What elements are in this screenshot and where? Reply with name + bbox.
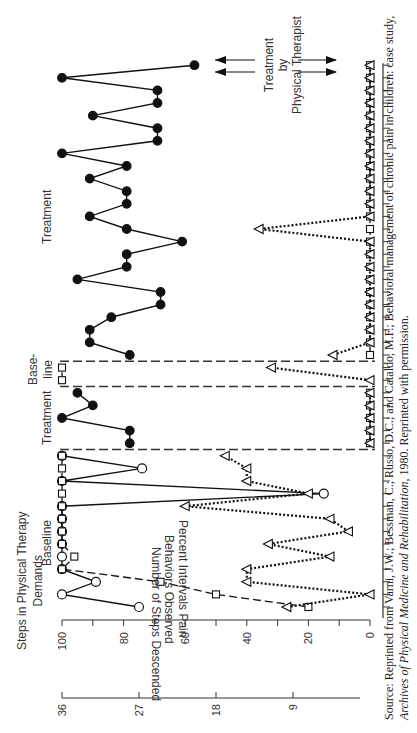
phase-label-baseline-2-line1: Base- (26, 354, 41, 385)
phase-label-treatment-2: Treatment (40, 190, 54, 244)
source-line2-rest: 1980. Reprinted with permission. (397, 315, 411, 478)
bottom-axis-title: Number of Steps Descended (149, 547, 163, 701)
svg-text:100: 100 (56, 632, 68, 650)
phase-label-baseline-2-line2: line (41, 354, 56, 385)
middle-axis-title-line1: Percent Intervals Pain (176, 520, 190, 637)
line-chart: 1008060402003627189 (0, 0, 417, 733)
middle-axis-title-line2: Behaviors Observed (162, 535, 176, 644)
phase-dividers (60, 361, 375, 449)
source-line2: Archives of Physical Medicine and Rehabi… (397, 16, 412, 720)
svg-text:36: 36 (56, 704, 68, 716)
svg-text:0: 0 (364, 632, 376, 638)
annotation-text: Treatment by Physical Therapist (262, 10, 304, 120)
svg-text:18: 18 (210, 704, 222, 716)
svg-text:27: 27 (133, 704, 145, 716)
data-series (58, 61, 375, 612)
middle-axis-title-block: Percent Intervals Pain Behaviors Observe… (162, 520, 202, 710)
svg-text:9: 9 (287, 704, 299, 710)
annotation-line3: Physical Therapist (290, 10, 304, 120)
svg-text:80: 80 (118, 632, 130, 644)
source-line1: Source: Reprinted from Varni, J.W.; Bess… (382, 16, 397, 720)
phase-label-baseline-2: Base- line (26, 354, 56, 385)
axes: 1008060402003627189 (56, 63, 390, 716)
svg-text:20: 20 (302, 632, 314, 644)
svg-text:40: 40 (241, 632, 253, 644)
phase-label-baseline: Baseline (40, 520, 54, 566)
source-citation: Source: Reprinted from Varni, J.W.; Bess… (382, 16, 412, 720)
phase-label-treatment-1: Treatment (40, 391, 54, 445)
left-axis-title-line1: Steps in Physical Therapy (14, 511, 30, 650)
journal-title: Archives of Physical Medicine and Rehabi… (397, 479, 411, 721)
annotation-line2: by (276, 10, 290, 120)
annotation-line1: Treatment (262, 10, 276, 120)
